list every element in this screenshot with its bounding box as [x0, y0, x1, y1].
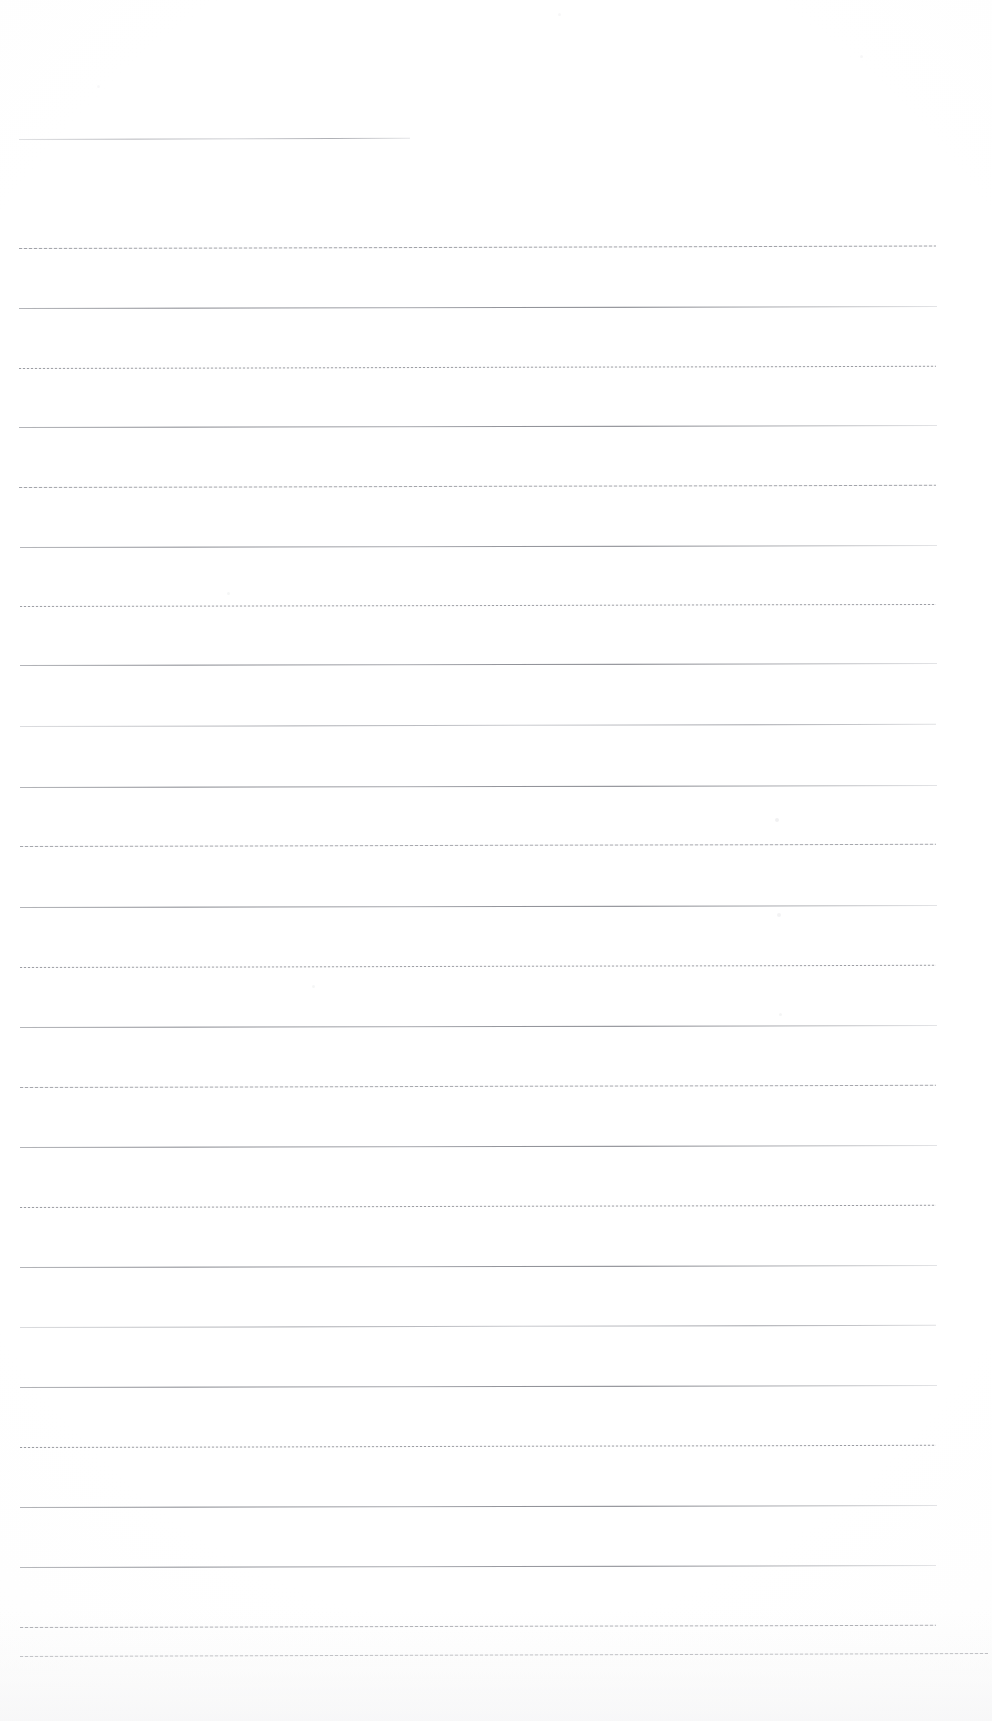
ruled-line: [20, 1205, 936, 1208]
ruled-line: [20, 965, 936, 968]
ruled-line-ink: [20, 965, 936, 968]
ruled-line: [20, 604, 936, 607]
ruled-line-ink: [20, 545, 937, 548]
ruled-line: [19, 485, 936, 488]
ruled-line-ink: [19, 138, 410, 140]
ruled-lines-container: [0, 0, 992, 1721]
ruled-line-ink: [19, 366, 936, 369]
ruled-line-ink: [19, 425, 937, 428]
ruled-line: [20, 1085, 936, 1088]
ruled-line-ink: [20, 844, 936, 847]
ruled-line-ink: [20, 1505, 937, 1508]
ruled-line: [20, 1565, 936, 1568]
ruled-line-ink: [20, 724, 936, 727]
ruled-line-ink: [20, 905, 937, 908]
ruled-line-ink: [20, 785, 937, 788]
ruled-line-ink: [20, 604, 936, 607]
ruled-line: [20, 1265, 937, 1268]
ruled-line: [19, 306, 937, 309]
ruled-line-ink: [19, 306, 937, 309]
ruled-line-ink: [20, 1025, 937, 1028]
ruled-line-ink: [20, 1205, 936, 1208]
ruled-line-ink: [20, 1625, 936, 1628]
ruled-line-ink: [19, 485, 936, 488]
ruled-line: [20, 1325, 936, 1328]
ruled-line: [20, 545, 937, 548]
ruled-line-ink: [20, 1565, 936, 1568]
ruled-line: [20, 905, 937, 908]
ruled-line-ink: [20, 1085, 936, 1088]
ruled-line: [20, 844, 936, 847]
ruled-line-ink: [20, 1325, 936, 1328]
ruled-line-ink: [20, 663, 937, 666]
ruled-line: [20, 663, 937, 666]
ruled-line: [20, 1385, 937, 1388]
ruled-line: [20, 1625, 936, 1628]
ruled-line: [20, 1145, 937, 1148]
ruled-line-ink: [20, 1445, 936, 1448]
ruled-line-ink: [20, 1145, 937, 1148]
ruled-line: [20, 1025, 937, 1028]
ruled-line: [20, 1653, 988, 1657]
ruled-line-ink: [20, 1265, 937, 1268]
ruled-line-ink: [19, 246, 936, 249]
scanned-page: [0, 0, 992, 1721]
ruled-line: [19, 246, 936, 249]
ruled-line: [20, 724, 936, 727]
ruled-line: [19, 366, 936, 369]
ruled-line: [19, 138, 410, 140]
ruled-line-ink: [20, 1385, 937, 1388]
ruled-line-ink: [20, 1653, 988, 1657]
ruled-line: [20, 1445, 936, 1448]
ruled-line: [20, 1505, 937, 1508]
ruled-line: [20, 785, 937, 788]
ruled-line: [19, 425, 937, 428]
